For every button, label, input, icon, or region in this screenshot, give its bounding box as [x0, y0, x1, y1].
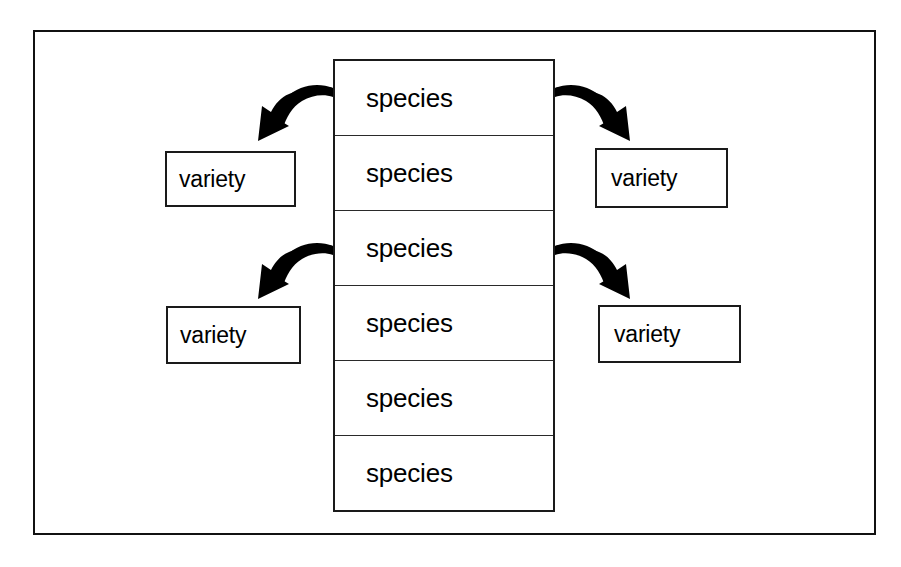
variety-label: variety — [179, 168, 245, 191]
variety-box-bottom-left: variety — [166, 306, 301, 364]
species-column: species species species species species … — [333, 59, 555, 512]
species-label: species — [366, 235, 453, 261]
variety-box-top-left: variety — [165, 151, 296, 207]
species-cell: species — [335, 286, 553, 361]
variety-label: variety — [611, 167, 677, 190]
species-label: species — [366, 310, 453, 336]
species-label: species — [366, 460, 453, 486]
species-label: species — [366, 385, 453, 411]
species-label: species — [366, 160, 453, 186]
species-cell: species — [335, 136, 553, 211]
diagram-canvas: species species species species species … — [0, 0, 901, 567]
variety-box-bottom-right: variety — [598, 305, 741, 363]
species-cell: species — [335, 436, 553, 510]
species-label: species — [366, 85, 453, 111]
species-cell: species — [335, 361, 553, 436]
species-cell: species — [335, 61, 553, 136]
variety-label: variety — [180, 324, 246, 347]
species-cell: species — [335, 211, 553, 286]
variety-box-top-right: variety — [595, 148, 728, 208]
variety-label: variety — [614, 323, 680, 346]
